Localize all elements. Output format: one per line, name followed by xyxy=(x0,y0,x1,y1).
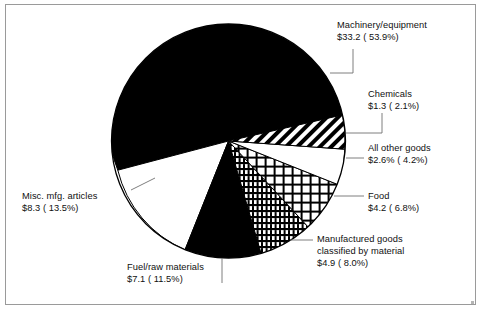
slice-label-misc-mfg-articles-name: Misc. mfg. articles xyxy=(22,190,97,202)
slice-label-food-name: Food xyxy=(368,190,419,202)
slice-label-manufactured-goods-name-2: classified by material xyxy=(317,245,404,257)
slice-label-machinery-name: Machinery/equipment xyxy=(337,19,427,31)
leader-line-chemicals xyxy=(346,113,382,133)
slice-label-chemicals-name: Chemicals xyxy=(368,88,419,100)
slice-label-chemicals-value: $1.3 ( 2.1%) xyxy=(368,100,419,112)
slice-label-fuel-raw-materials: Fuel/raw materials $7.1 ( 11.5%) xyxy=(127,261,204,285)
slice-label-misc-mfg-articles: Misc. mfg. articles $8.3 ( 13.5%) xyxy=(22,190,97,214)
slice-label-manufactured-goods-value: $4.9 ( 8.0%) xyxy=(317,257,404,269)
pie-chart-page: Machinery/equipment $33.2 ( 53.9%) Chemi… xyxy=(0,0,483,312)
slice-label-fuel-raw-materials-value: $7.1 ( 11.5%) xyxy=(127,273,204,285)
slice-label-food-value: $4.2 ( 6.8%) xyxy=(368,202,419,214)
slice-label-all-other-goods: All other goods $2.6% ( 4.2%) xyxy=(368,142,431,166)
slice-label-fuel-raw-materials-name: Fuel/raw materials xyxy=(127,261,204,273)
slice-label-chemicals: Chemicals $1.3 ( 2.1%) xyxy=(368,88,419,112)
slice-label-all-other-goods-name: All other goods xyxy=(368,142,431,154)
slice-label-machinery-value: $33.2 ( 53.9%) xyxy=(337,31,427,43)
leader-line-machinery xyxy=(330,49,353,73)
corner-artifact-mark xyxy=(471,301,474,304)
slice-label-all-other-goods-value: $2.6% ( 4.2%) xyxy=(368,154,431,166)
slice-label-manufactured-goods-name-1: Manufactured goods xyxy=(317,233,404,245)
slice-label-food: Food $4.2 ( 6.8%) xyxy=(368,190,419,214)
slice-label-manufactured-goods: Manufactured goods classified by materia… xyxy=(317,233,404,270)
slice-label-misc-mfg-articles-value: $8.3 ( 13.5%) xyxy=(22,202,97,214)
slice-label-machinery-equipment: Machinery/equipment $33.2 ( 53.9%) xyxy=(337,19,427,43)
